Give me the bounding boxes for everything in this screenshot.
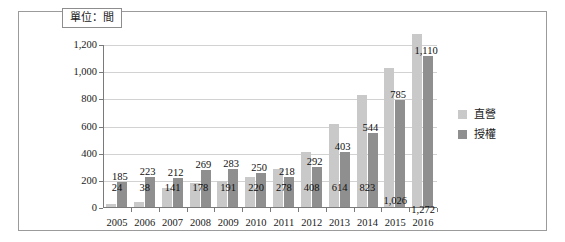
bar-value-label: 1,110 <box>407 45 445 56</box>
bar-direct-operated[interactable] <box>134 202 144 207</box>
y-axis-tick-label: 800 <box>51 94 97 104</box>
x-axis-tick-mark <box>242 208 243 212</box>
x-axis-tick-label: 2016 <box>406 217 440 228</box>
x-axis-tick-mark <box>159 208 160 212</box>
legend-item-label: 直營 <box>474 109 496 121</box>
y-axis-tick-label: 200 <box>51 176 97 186</box>
legend-swatch-icon <box>458 110 467 119</box>
y-axis-tick-label: 400 <box>51 149 97 159</box>
x-axis-tick-mark <box>326 208 327 212</box>
bar-group <box>410 45 438 207</box>
bar-licensed[interactable] <box>368 133 378 207</box>
bar-licensed[interactable] <box>340 152 350 207</box>
bar-value-label: 785 <box>379 89 417 100</box>
legend-item-label: 授權 <box>474 129 496 141</box>
bar-licensed[interactable] <box>423 56 433 207</box>
x-axis-tick-mark <box>131 208 132 212</box>
x-axis-tick-mark <box>214 208 215 212</box>
y-axis-tick-mark <box>99 154 103 155</box>
bar-value-label: 1,272 <box>405 204 441 215</box>
legend-item[interactable]: 直營 <box>458 108 530 121</box>
x-axis-tick-mark <box>354 208 355 212</box>
legend-swatch-icon <box>458 130 467 139</box>
bar-direct-operated[interactable] <box>106 204 116 207</box>
bar-licensed[interactable] <box>395 100 405 207</box>
x-axis-tick-mark <box>270 208 271 212</box>
y-axis-tick-mark <box>99 99 103 100</box>
x-axis-tick-mark <box>381 208 382 212</box>
chart-legend: 直營授權 <box>458 108 530 148</box>
y-axis-tick-mark <box>99 208 103 209</box>
bar-value-label: 218 <box>268 166 306 177</box>
x-axis-tick-mark <box>298 208 299 212</box>
chart-figure: 單位：間 02004006008001,0001,200241852005382… <box>0 0 565 242</box>
bar-value-label: 403 <box>324 141 362 152</box>
y-axis-tick-label: 1,200 <box>51 40 97 50</box>
y-axis-tick-label: 600 <box>51 122 97 132</box>
x-axis-tick-mark <box>187 208 188 212</box>
bar-value-label: 823 <box>350 182 386 193</box>
y-axis-tick-label: 0 <box>51 203 97 213</box>
x-axis-tick-mark <box>437 208 438 212</box>
y-axis-tick-mark <box>99 72 103 73</box>
y-axis-tick-mark <box>99 45 103 46</box>
bar-value-label: 292 <box>296 156 334 167</box>
y-axis-tick-label: 1,000 <box>51 67 97 77</box>
legend-item[interactable]: 授權 <box>458 128 530 141</box>
bar-direct-operated[interactable] <box>412 34 422 207</box>
bar-value-label: 544 <box>352 122 390 133</box>
y-axis-tick-mark <box>99 127 103 128</box>
